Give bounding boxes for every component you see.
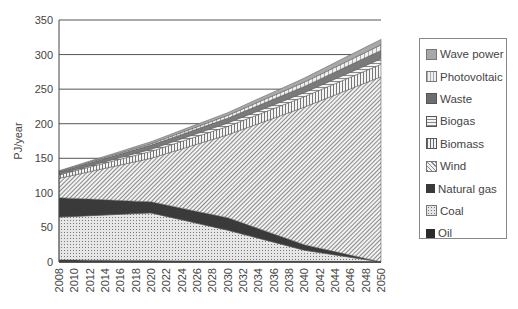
x-tick-label: 2048	[360, 268, 372, 292]
x-tick-label: 2040	[298, 268, 310, 292]
x-tick-label: 2030	[222, 268, 234, 292]
legend-item-natural-gas: Natural gas	[420, 177, 506, 199]
y-tick-label: 200	[35, 118, 53, 130]
x-tick-label: 2008	[53, 268, 65, 292]
legend-label: Biomass	[440, 138, 484, 150]
x-tick-label: 2050	[375, 268, 387, 292]
legend: Wave powerPhotovoltaicWasteBiogasBiomass…	[419, 38, 507, 239]
x-tick-label: 2034	[252, 268, 264, 292]
legend-label: Wave power	[440, 48, 504, 60]
legend-swatch-icon	[426, 49, 437, 60]
y-tick-label: 100	[35, 187, 53, 199]
legend-item-wind: Wind	[420, 155, 506, 177]
x-tick-label: 2024	[176, 268, 188, 292]
y-tick-label: 250	[35, 83, 53, 95]
y-tick-label: 350	[35, 14, 53, 26]
legend-label: Photovoltaic	[440, 71, 503, 83]
legend-item-wave-power: Wave power	[420, 43, 506, 65]
legend-item-waste: Waste	[420, 88, 506, 110]
area-layers	[59, 39, 381, 262]
x-tick-label: 2046	[344, 268, 356, 292]
x-tick-label: 2018	[130, 268, 142, 292]
x-tick-label: 2022	[160, 268, 172, 292]
x-tick-label: 2032	[237, 268, 249, 292]
x-tick-label: 2038	[283, 268, 295, 292]
x-tick-label: 2014	[99, 268, 111, 292]
legend-swatch-icon	[426, 71, 437, 82]
legend-swatch-icon	[426, 138, 437, 149]
legend-label: Coal	[440, 205, 464, 217]
y-tick-label: 150	[35, 152, 53, 164]
y-tick-label: 0	[47, 256, 53, 268]
x-tick-label: 2036	[268, 268, 280, 292]
x-tick-label: 2012	[84, 268, 96, 292]
x-tick-label: 2026	[191, 268, 203, 292]
legend-label: Wind	[440, 160, 466, 172]
legend-label: Waste	[440, 93, 472, 105]
legend-item-photovoltaic: Photovoltaic	[420, 65, 506, 87]
y-axis-title: PJ/year	[12, 122, 24, 160]
legend-item-biogas: Biogas	[420, 110, 506, 132]
legend-label: Oil	[438, 227, 452, 239]
legend-swatch-icon	[426, 93, 437, 104]
y-tick-label: 50	[41, 221, 53, 233]
legend-swatch-icon	[426, 184, 435, 193]
legend-swatch-icon	[426, 116, 437, 127]
legend-label: Biogas	[440, 115, 475, 127]
legend-item-oil: Oil	[420, 222, 506, 244]
x-tick-label: 2016	[114, 268, 126, 292]
legend-swatch-icon	[426, 161, 437, 172]
x-tick-label: 2020	[145, 268, 157, 292]
x-tick-label: 2028	[206, 268, 218, 292]
x-tick-label: 2044	[329, 268, 341, 292]
y-tick-label: 300	[35, 49, 53, 61]
legend-swatch-icon	[426, 229, 435, 238]
legend-item-coal: Coal	[420, 200, 506, 222]
legend-swatch-icon	[426, 205, 437, 216]
x-tick-label: 2010	[68, 268, 80, 292]
x-tick-label: 2042	[314, 268, 326, 292]
legend-label: Natural gas	[438, 183, 497, 195]
legend-item-biomass: Biomass	[420, 133, 506, 155]
